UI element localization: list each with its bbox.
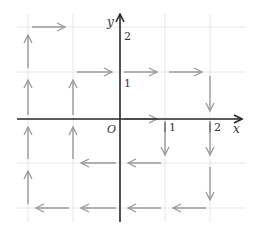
vector-field-diagram: x y O 1 2 1 2 bbox=[0, 0, 263, 239]
y-axis-label: y bbox=[106, 15, 114, 29]
x-axis-label: x bbox=[233, 122, 240, 136]
origin-label: O bbox=[107, 123, 116, 136]
coordinate-axes: x y O 1 2 1 2 bbox=[17, 14, 242, 222]
x-tick-label-1: 1 bbox=[169, 121, 176, 134]
x-tick-label-2: 2 bbox=[214, 121, 221, 134]
grid-lines bbox=[17, 14, 245, 222]
vector-arrows bbox=[28, 27, 210, 208]
y-tick-label-2: 2 bbox=[124, 30, 131, 43]
y-tick-label-1: 1 bbox=[124, 77, 131, 90]
